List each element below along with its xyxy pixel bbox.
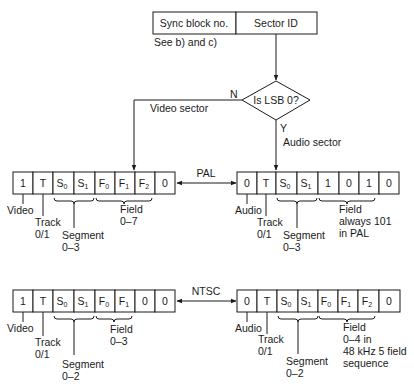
- svg-text:1: 1: [366, 177, 372, 189]
- video-sector-label: Video sector: [150, 102, 209, 114]
- svg-text:T: T: [40, 295, 47, 307]
- ntsc-video-track: Track: [35, 336, 62, 348]
- svg-text:T: T: [40, 177, 47, 189]
- svg-text:0: 0: [162, 177, 168, 189]
- audio-sector-label: Audio sector: [283, 136, 342, 148]
- svg-text:always 101: always 101: [339, 215, 392, 227]
- svg-text:0–2: 0–2: [62, 370, 80, 382]
- svg-text:sequence: sequence: [343, 357, 389, 369]
- pal-label: PAL: [196, 167, 215, 179]
- svg-text:0: 0: [386, 295, 392, 307]
- svg-text:0: 0: [346, 177, 352, 189]
- svg-text:1: 1: [20, 177, 26, 189]
- decision-yes-label: Y: [280, 122, 287, 134]
- sector-id-label: Sector ID: [254, 17, 298, 29]
- svg-text:0: 0: [142, 295, 148, 307]
- pal-video-track: Track: [35, 216, 62, 228]
- decision-question: Is LSB 0?: [253, 94, 299, 106]
- pal-audio-track: Track: [257, 216, 284, 228]
- svg-text:0/1: 0/1: [35, 348, 50, 360]
- sync-block-header: Sync block no. Sector ID See b) and c): [153, 12, 317, 48]
- svg-text:0: 0: [244, 177, 250, 189]
- ntsc-video-field: Field: [110, 323, 133, 335]
- svg-text:0: 0: [244, 295, 250, 307]
- ntsc-label: NTSC: [192, 285, 221, 297]
- svg-text:0: 0: [162, 295, 168, 307]
- svg-text:1: 1: [20, 295, 26, 307]
- pal-audio-word: 0 T S0 S1 1 0 1 0 Audio Track 0/1 Segmen…: [235, 172, 399, 253]
- svg-text:0/1: 0/1: [257, 228, 272, 240]
- svg-text:0: 0: [386, 177, 392, 189]
- pal-video-segment: Segment: [62, 229, 104, 241]
- pal-video-field: Field: [120, 203, 143, 215]
- svg-text:T: T: [264, 295, 271, 307]
- pal-audio-segment: Segment: [283, 229, 325, 241]
- ntsc-video-segment: Segment: [62, 358, 104, 370]
- ntsc-audio-segment: Segment: [286, 355, 328, 367]
- svg-text:0–3: 0–3: [62, 241, 80, 253]
- ntsc-video-word: 1 T S0 S1 F0 F1 0 0 Video Track 0/1 Segm…: [7, 290, 175, 382]
- pal-video-word: 1 T S0 S1 F0 F1 F2 0 Video Track 0/1 Seg…: [7, 172, 175, 253]
- svg-text:0–4 in: 0–4 in: [343, 333, 372, 345]
- svg-text:0/1: 0/1: [35, 228, 50, 240]
- ntsc-audio-word: 0 T S0 S1 F0 F1 F2 0 Audio Track 0/1 Seg…: [235, 290, 407, 379]
- svg-text:0–3: 0–3: [110, 335, 128, 347]
- svg-text:48 kHz 5 field: 48 kHz 5 field: [343, 345, 407, 357]
- decision-no-label: N: [230, 88, 238, 100]
- svg-text:0–2: 0–2: [286, 367, 304, 379]
- svg-text:1: 1: [325, 177, 331, 189]
- ntsc-video-type: Video: [7, 322, 34, 334]
- sector-id-flow-diagram: Sync block no. Sector ID See b) and c) I…: [0, 0, 414, 386]
- ntsc-audio-field: Field: [343, 321, 366, 333]
- svg-text:0–3: 0–3: [283, 241, 301, 253]
- svg-text:in PAL: in PAL: [339, 227, 369, 239]
- svg-text:T: T: [263, 177, 270, 189]
- lsb-decision: Is LSB 0? N Y: [230, 81, 310, 134]
- header-note: See b) and c): [154, 36, 217, 48]
- pal-audio-type: Audio: [235, 204, 262, 216]
- ntsc-audio-track: Track: [258, 333, 285, 345]
- svg-text:0–7: 0–7: [120, 215, 138, 227]
- sync-block-label: Sync block no.: [160, 17, 228, 29]
- svg-text:0/1: 0/1: [258, 345, 273, 357]
- pal-video-type: Video: [7, 204, 34, 216]
- pal-audio-field: Field: [339, 203, 362, 215]
